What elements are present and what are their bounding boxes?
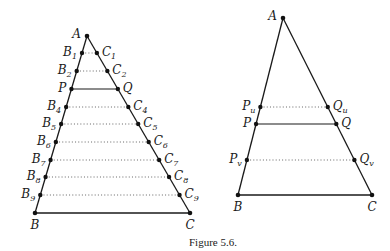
right-point-left-1 (254, 122, 258, 126)
left-point-left-8 (38, 193, 42, 197)
left-point-left-1 (75, 69, 79, 73)
left-vertex-C (188, 211, 193, 216)
right-point-left-2 (245, 158, 249, 162)
right-vertex-A (281, 16, 286, 21)
left-point-right-4 (136, 122, 140, 126)
right-point-right-2 (352, 158, 356, 162)
figure-caption: Figure 5.6. (189, 236, 237, 248)
right-point-right-0 (326, 105, 330, 109)
left-label-left-8: B9 (20, 187, 35, 203)
right-point-right-1 (334, 122, 338, 126)
right-label-A: A (267, 9, 277, 23)
right-vertex-C (370, 193, 375, 198)
right-label-left-0: Pu (241, 99, 255, 115)
left-point-left-4 (59, 122, 63, 126)
left-label-right-5: C6 (154, 134, 168, 150)
left-point-right-6 (157, 158, 161, 162)
left-label-right-3: C4 (133, 99, 147, 115)
left-label-A: A (71, 27, 81, 41)
left-point-right-0 (95, 51, 99, 55)
left-point-right-3 (126, 105, 130, 109)
left-vertex-B (33, 211, 38, 216)
left-point-left-2 (69, 87, 73, 91)
left-point-left-3 (64, 105, 68, 109)
right-triangle-figure: PuQuPQPvQvABC (228, 9, 376, 214)
left-label-C: C (185, 218, 194, 232)
left-label-B: B (30, 218, 40, 232)
right-label-C: C (367, 200, 376, 214)
left-label-right-2: Q (123, 81, 133, 95)
left-label-right-4: C5 (143, 116, 157, 132)
right-label-B: B (233, 200, 243, 214)
right-vertex-B (236, 193, 241, 198)
left-label-right-8: C9 (185, 187, 199, 203)
left-label-left-1: B2 (57, 63, 72, 79)
left-label-right-0: C1 (102, 45, 116, 61)
left-point-right-1 (105, 69, 109, 73)
left-label-left-3: B4 (46, 99, 61, 115)
left-point-left-6 (48, 158, 52, 162)
left-vertex-A (85, 34, 90, 39)
left-label-left-0: B1 (62, 45, 77, 61)
left-point-right-2 (116, 87, 120, 91)
left-point-right-8 (177, 193, 181, 197)
left-label-left-2: P (57, 81, 67, 95)
right-label-right-1: Q (341, 116, 351, 130)
left-label-left-7: B8 (26, 169, 41, 185)
similar-triangles-diagram: B1C1B2C2PQB4C4B5C5B6C6B7C7B8C8B9C9ABC Pu… (0, 0, 390, 251)
left-point-right-5 (146, 140, 150, 144)
left-label-left-4: B5 (41, 116, 56, 132)
right-point-left-0 (258, 105, 262, 109)
left-point-left-7 (43, 175, 47, 179)
left-label-right-6: C7 (164, 152, 179, 168)
left-point-left-0 (80, 51, 84, 55)
left-label-right-7: C8 (174, 169, 188, 185)
right-label-right-2: Qv (359, 152, 374, 168)
figure-canvas: B1C1B2C2PQB4C4B5C5B6C6B7C7B8C8B9C9ABC Pu… (0, 0, 390, 251)
left-label-right-1: C2 (112, 63, 126, 79)
right-label-right-0: Qu (333, 99, 348, 115)
right-label-left-2: Pv (228, 152, 242, 168)
left-point-right-7 (167, 175, 171, 179)
left-triangle-figure: B1C1B2C2PQB4C4B5C5B6C6B7C7B8C8B9C9ABC (20, 27, 198, 232)
left-point-left-5 (54, 140, 58, 144)
left-label-left-5: B6 (36, 134, 51, 150)
left-label-left-6: B7 (31, 152, 47, 168)
right-label-left-1: P (242, 116, 252, 130)
